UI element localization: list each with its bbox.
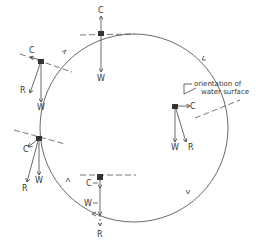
- label-r: R: [188, 143, 194, 152]
- label-r: R: [20, 86, 26, 95]
- circular-motion-force-diagram: C W C W R C W R orientation of water sur…: [0, 0, 265, 246]
- label-c: C: [86, 179, 92, 188]
- circular-path: [40, 34, 228, 222]
- label-r: R: [97, 230, 103, 239]
- bucket-right: C W R: [171, 100, 240, 152]
- label-c: C: [190, 102, 196, 111]
- bucket-lower-left: C W R: [14, 130, 65, 193]
- label-c: C: [29, 46, 35, 55]
- direction-arrow-icon: [66, 178, 70, 182]
- label-w: W: [97, 74, 105, 83]
- label-w: W: [171, 143, 179, 152]
- label-w: W: [84, 199, 92, 208]
- label-r: R: [22, 184, 28, 193]
- label-c: C: [23, 145, 29, 154]
- label-w: W: [37, 103, 45, 112]
- direction-arrow-icon: [202, 56, 206, 60]
- label-c: C: [98, 6, 104, 15]
- annotation-line1: orientation of: [194, 80, 242, 88]
- direction-arrow-icon: [186, 190, 190, 194]
- annotation-water-surface: orientation of water surface: [184, 80, 249, 96]
- annotation-line2: water surface: [201, 88, 249, 96]
- bucket-bottom: C W R: [80, 174, 136, 239]
- label-w: W: [35, 176, 43, 185]
- bucket-upper-left: C W R: [20, 46, 72, 112]
- bucket-top: C W: [80, 6, 135, 83]
- direction-arrow-icon: [62, 50, 66, 54]
